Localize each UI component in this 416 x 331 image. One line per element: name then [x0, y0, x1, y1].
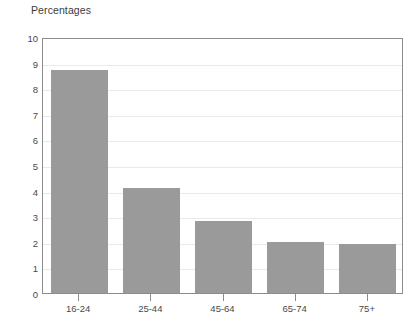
x-tick-label: 25-44	[138, 303, 162, 314]
bar	[339, 244, 396, 293]
y-tick-label: 6	[8, 135, 38, 146]
y-tick-label: 8	[8, 84, 38, 95]
x-tick-label: 65-74	[283, 303, 307, 314]
bar	[51, 70, 108, 293]
x-tick	[223, 294, 224, 301]
y-tick-label: 5	[8, 161, 38, 172]
y-axis: 012345678910	[2, 38, 38, 294]
bar	[195, 221, 252, 293]
x-tick-label: 75+	[359, 303, 375, 314]
x-tick	[78, 294, 79, 301]
y-tick-label: 10	[8, 33, 38, 44]
x-tick	[150, 294, 151, 301]
bar-chart: Percentages 012345678910 16-2425-4445-64…	[0, 0, 416, 331]
x-axis: 16-2425-4445-6465-7475+	[42, 303, 403, 323]
y-tick-label: 9	[8, 58, 38, 69]
x-tick-label: 45-64	[210, 303, 234, 314]
y-tick-label: 2	[8, 237, 38, 248]
plot-area	[42, 38, 403, 294]
x-tick	[295, 294, 296, 301]
x-tick	[367, 294, 368, 301]
chart-title: Percentages	[31, 4, 91, 16]
x-axis-ticks	[42, 294, 403, 302]
bar	[123, 188, 180, 293]
bar	[267, 242, 324, 293]
y-tick-label: 7	[8, 109, 38, 120]
bar-series	[43, 39, 402, 293]
y-tick-label: 3	[8, 212, 38, 223]
y-tick-label: 0	[8, 289, 38, 300]
y-tick-label: 1	[8, 263, 38, 274]
y-tick-label: 4	[8, 186, 38, 197]
x-tick-label: 16-24	[66, 303, 90, 314]
